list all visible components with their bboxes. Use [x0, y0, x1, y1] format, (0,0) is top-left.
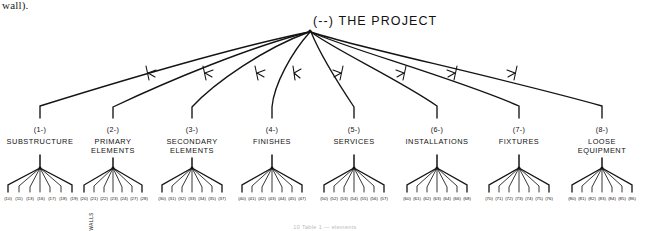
leaf-code: (50) [320, 196, 328, 201]
leaf-code: (30) [158, 196, 166, 201]
node-code: (1-) [34, 125, 46, 134]
leaf-code: (27) [130, 196, 138, 201]
leaf-code: (19) [70, 196, 78, 201]
leaf-fans [8, 168, 632, 192]
leaf-code: (13) [26, 196, 34, 201]
leaf-code: (41) [248, 196, 256, 201]
leaf-code: (23) [110, 196, 118, 201]
leaf-code: (57) [380, 196, 388, 201]
leaf-code: (82) [588, 196, 596, 201]
node-name-line1: SUBSTRUCTURE [7, 137, 74, 146]
leaf-code-labels: (10) (11) (13) (16) (17) (18) (19) (20) … [4, 196, 636, 201]
leaf-code: (34) [198, 196, 206, 201]
leaf-code: (56) [370, 196, 378, 201]
leaf-code: (28) [140, 196, 148, 201]
node-name-line2: ELEMENTS [170, 146, 214, 155]
leaf-code: (31) [168, 196, 176, 201]
leaf-code: (40) [238, 196, 246, 201]
leaf-code: (63) [433, 196, 441, 201]
scanned-page: wall). (--) THE PROJECT [0, 0, 650, 231]
leaf-code: (64) [443, 196, 451, 201]
leaf-code: (20) [80, 196, 88, 201]
leaf-code: (85) [618, 196, 626, 201]
category-node-2[interactable]: (2-) PRIMARY ELEMENTS [91, 125, 135, 155]
category-node-8[interactable]: (8-) LOOSE EQUIPMENT [578, 125, 626, 155]
leaf-code: (83) [598, 196, 606, 201]
category-node-7[interactable]: (7-) FIXTURES [499, 125, 540, 146]
leaf-fan-7 [489, 168, 549, 192]
node-code: (8-) [596, 125, 608, 134]
root-node-label: (--) THE PROJECT [313, 14, 437, 28]
leaf-code: (24) [120, 196, 128, 201]
node-stems [40, 155, 602, 168]
node-name-line2: EQUIPMENT [578, 146, 626, 155]
leaf-fan-6 [407, 168, 467, 192]
leaf-code: (72) [505, 196, 513, 201]
category-node-5[interactable]: (5-) SERVICES [333, 125, 374, 146]
category-node-4[interactable]: (4-) FINISHES [253, 125, 291, 146]
leaf-code: (16) [37, 196, 45, 201]
leaf-fan-1 [8, 168, 72, 192]
category-node-3[interactable]: (3-) SECONDARY ELEMENTS [166, 125, 217, 155]
leaf-fan-8 [572, 168, 632, 192]
node-code: (4-) [266, 125, 278, 134]
leaf-code: (80) [568, 196, 576, 201]
leaf-fan-3 [162, 168, 222, 192]
figure-caption: 10 Table 1 — elements [293, 224, 356, 230]
node-code: (6-) [431, 125, 443, 134]
leaf-code: (45) [288, 196, 296, 201]
category-node-labels: (1-) SUBSTRUCTURE (2-) PRIMARY ELEMENTS … [7, 125, 627, 155]
node-code: (3-) [186, 125, 198, 134]
category-node-1[interactable]: (1-) SUBSTRUCTURE [7, 125, 74, 146]
leaf-code: (62) [423, 196, 431, 201]
node-name-line1: LOOSE [588, 137, 616, 146]
node-name-line1: FINISHES [253, 137, 291, 146]
leaf-code: (68) [463, 196, 471, 201]
leaf-code: (17) [48, 196, 56, 201]
leaf-code: (86) [628, 196, 636, 201]
node-code: (2-) [107, 125, 119, 134]
leaf-fan-4 [242, 168, 302, 192]
leaf-code: (76) [545, 196, 553, 201]
leaf-code: (61) [413, 196, 421, 201]
leaf-hub-dots [39, 167, 604, 170]
walls-annotation: WALLS [89, 212, 94, 230]
leaf-code: (21) [90, 196, 98, 201]
leaf-fan-5 [324, 168, 384, 192]
leaf-code: (22) [100, 196, 108, 201]
leaf-code: (10) [4, 196, 12, 201]
leaf-code: (47) [298, 196, 306, 201]
node-name-line1: SECONDARY [166, 137, 217, 146]
node-name-line1: PRIMARY [94, 137, 131, 146]
leaf-code: (74) [525, 196, 533, 201]
leaf-code: (81) [578, 196, 586, 201]
category-node-6[interactable]: (6-) INSTALLATIONS [406, 125, 469, 146]
leaf-code: (53) [340, 196, 348, 201]
leaf-code: (11) [15, 196, 23, 201]
leaf-code: (18) [59, 196, 67, 201]
leaf-fan-2 [84, 168, 142, 192]
leaf-code: (75) [535, 196, 543, 201]
leaf-code: (84) [608, 196, 616, 201]
node-name-line1: INSTALLATIONS [406, 137, 469, 146]
tree-diagram-svg: (--) THE PROJECT [0, 0, 650, 231]
leaf-code: (54) [350, 196, 358, 201]
leaf-code: (66) [453, 196, 461, 201]
leaf-code: (44) [278, 196, 286, 201]
leaf-code: (37) [218, 196, 226, 201]
leaf-code: (70) [485, 196, 493, 201]
node-code: (5-) [348, 125, 360, 134]
node-name-line1: FIXTURES [499, 137, 540, 146]
leaf-code: (60) [403, 196, 411, 201]
node-name-line2: ELEMENTS [91, 146, 135, 155]
leaf-code: (43) [268, 196, 276, 201]
node-code: (7-) [513, 125, 525, 134]
leaf-code: (71) [495, 196, 503, 201]
leaf-code: (52) [330, 196, 338, 201]
leaf-code: (73) [515, 196, 523, 201]
tree-diagram-figure: (--) THE PROJECT [0, 0, 650, 231]
leaf-code: (32) [178, 196, 186, 201]
leaf-code: (55) [360, 196, 368, 201]
root-branches [40, 32, 602, 118]
leaf-code: (42) [258, 196, 266, 201]
